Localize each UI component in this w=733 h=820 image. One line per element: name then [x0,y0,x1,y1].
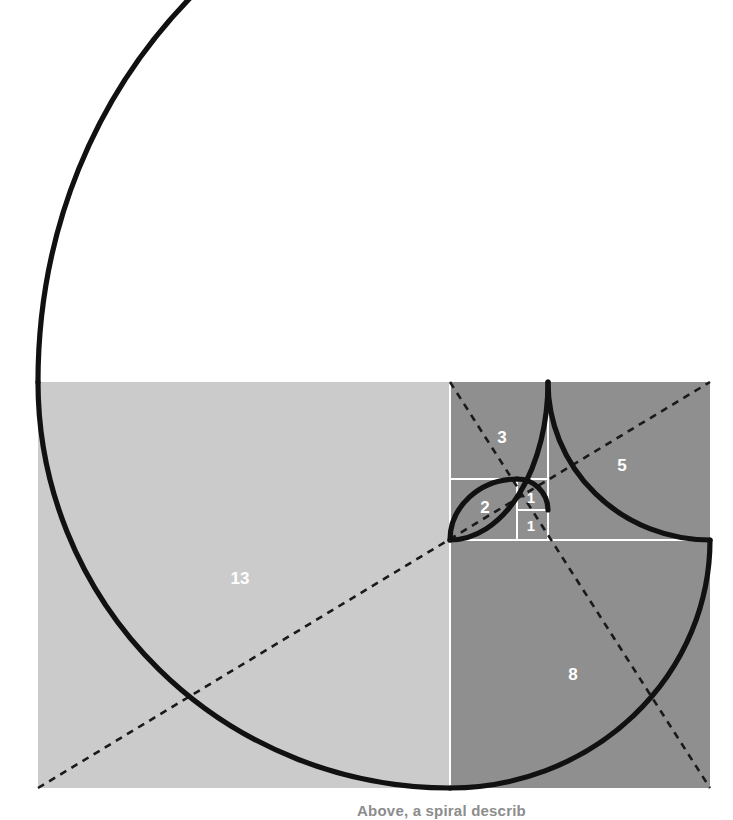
label-square-1-upper: 1 [527,489,535,506]
label-square-5: 5 [617,456,626,475]
fibonacci-diagram: 13 8 5 3 2 1 1 Above, a spiral describ [0,0,733,820]
square-8 [450,540,710,788]
label-square-8: 8 [568,665,577,684]
figure-caption-text: Above, a spiral describ [357,802,526,819]
figure-caption: Above, a spiral describ [0,802,733,819]
label-square-2: 2 [480,498,489,517]
label-square-3: 3 [497,428,506,447]
label-square-13: 13 [231,569,250,588]
fibonacci-spiral-figure: 13 8 5 3 2 1 1 [0,0,733,820]
label-square-1-lower: 1 [527,517,535,534]
spiral-arc-13 [38,0,192,382]
